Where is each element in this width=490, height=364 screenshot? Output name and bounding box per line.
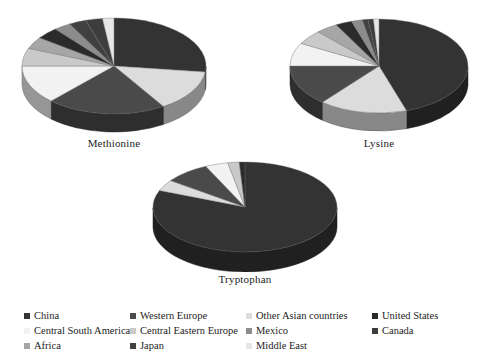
legend-item-united-states[interactable]: United States (372, 309, 468, 322)
methionine-pie-svg: China: 27%Other Asian countries: 14%West… (14, 8, 214, 136)
legend-swatch-icon (130, 343, 136, 349)
legend-item-mexico[interactable]: Mexico (246, 324, 372, 337)
legend-swatch-icon (372, 328, 378, 334)
legend-swatch-icon (372, 313, 378, 319)
legend-item-label: Mexico (256, 324, 288, 337)
methionine-caption: Methionine (14, 137, 214, 149)
tryptophan-chart-block: China: 81%Other Asian countries: 4%Weste… (145, 152, 345, 285)
legend-item-western-europe[interactable]: Western Europe (130, 309, 246, 322)
legend-item-label: Central South America (34, 324, 130, 337)
legend-swatch-icon (246, 313, 252, 319)
legend-item-canada[interactable]: Canada (372, 324, 468, 337)
pie-top-faces: China: 27%Other Asian countries: 14%West… (22, 18, 206, 114)
legend-item-label: Western Europe (140, 309, 207, 322)
legend-item-central-eastern-europe[interactable]: Central Eastern Europe (130, 324, 246, 337)
legend-swatch-icon (24, 313, 30, 319)
tryptophan-pie-svg: China: 81%Other Asian countries: 4%Weste… (145, 152, 345, 272)
pie-chart-figure: China: 27%Other Asian countries: 14%West… (0, 0, 490, 364)
legend-item-label: Other Asian countries (256, 309, 348, 322)
legend-swatch-icon (24, 328, 30, 334)
pie-top-faces: China: 81%Other Asian countries: 4%Weste… (153, 162, 337, 252)
pie-slice-china[interactable]: China: 27% (114, 18, 206, 72)
legend-item-japan[interactable]: Japan (130, 339, 246, 352)
lysine-pie-svg: China: 45%Other Asian countries: 16%West… (283, 8, 475, 136)
legend-item-label: China (34, 309, 59, 322)
legend-item-central-south-america[interactable]: Central South America (24, 324, 130, 337)
legend-item-africa[interactable]: Africa (24, 339, 130, 352)
lysine-chart-block: China: 45%Other Asian countries: 16%West… (283, 8, 475, 149)
methionine-chart-block: China: 27%Other Asian countries: 14%West… (14, 8, 214, 149)
legend-swatch-icon (130, 313, 136, 319)
lysine-caption: Lysine (283, 137, 475, 149)
legend-item-label: Central Eastern Europe (140, 324, 238, 337)
region-legend: ChinaWestern EuropeOther Asian countries… (24, 308, 474, 353)
legend-item-other-asian-countries[interactable]: Other Asian countries (246, 309, 372, 322)
tryptophan-caption: Tryptophan (145, 273, 345, 285)
legend-item-label: Canada (382, 324, 414, 337)
pie-top-faces: China: 45%Other Asian countries: 16%West… (290, 19, 468, 113)
legend-item-china[interactable]: China (24, 309, 130, 322)
legend-item-label: Middle East (256, 339, 307, 352)
legend-swatch-icon (246, 343, 252, 349)
legend-item-label: United States (382, 309, 438, 322)
legend-swatch-icon (24, 343, 30, 349)
legend-item-label: Africa (34, 339, 61, 352)
legend-swatch-icon (130, 328, 136, 334)
legend-item-middle-east[interactable]: Middle East (246, 339, 372, 352)
legend-swatch-icon (246, 328, 252, 334)
legend-item-label: Japan (140, 339, 164, 352)
